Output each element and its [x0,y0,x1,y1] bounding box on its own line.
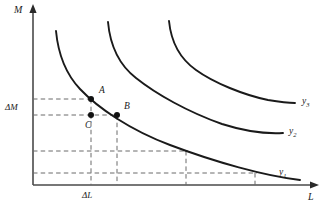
isoquant-diagram: M L ΔM ΔL A B C y3 y2 y1 [0,0,329,214]
y-axis-arrow [29,4,36,13]
y-axis-tick-label-delta-m: ΔM [5,103,18,112]
curve-label-y2: y2 [289,127,296,138]
x-axis-label: L [308,192,314,202]
point-label-a: A [99,86,105,96]
curve-label-y3-sub: 3 [306,101,309,108]
point-marker-a [88,96,94,102]
x-axis-tick-label-delta-l: ΔL [82,191,92,200]
curve-label-y2-sub: 2 [293,131,296,138]
point-label-b: B [124,102,130,112]
curve-label-y1: y1 [279,168,286,179]
curve-label-y3: y3 [302,97,309,108]
y-axis-label: M [14,5,22,15]
curve-label-y1-sub: 1 [283,172,286,179]
axes-group [29,4,319,189]
point-marker-b [114,112,120,118]
curve-y3 [169,21,295,103]
point-marker-c [88,112,94,118]
x-axis-arrow [310,181,319,188]
curve-y2 [108,22,283,133]
diagram-canvas [0,0,329,214]
point-label-c: C [85,121,91,131]
guide-lines-group [33,99,257,185]
